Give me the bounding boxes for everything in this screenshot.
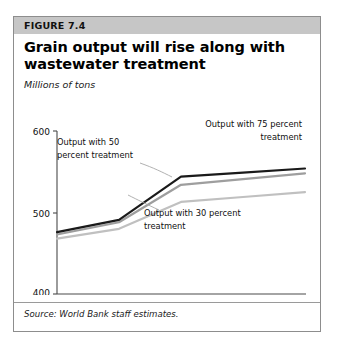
- annotation-50-percent-line-1: Output with 50: [57, 137, 119, 147]
- source-note: Source: World Bank staff estimates.: [24, 309, 179, 319]
- annotation-30-percent-line-1: Output with 30 percent: [144, 208, 241, 218]
- figure-title-line-2: wastewater treatment: [24, 56, 206, 72]
- annotation-75-percent-line-2: treatment: [260, 132, 302, 142]
- leader-line-50-percent: [140, 163, 172, 177]
- figure-title-line-1: Grain output will rise along with: [24, 39, 285, 55]
- figure-number-banner: FIGURE 7.4: [14, 17, 320, 34]
- figure-number-label: FIGURE 7.4: [24, 20, 85, 31]
- y-tick-label-600: 600: [33, 127, 50, 137]
- chart-plot-area: 600 500 400 2000 2005 2010 2015 2020 Out…: [14, 95, 320, 295]
- line-chart-svg: 600 500 400 2000 2005 2010 2015 2020 Out…: [14, 95, 320, 295]
- source-divider: [14, 302, 320, 303]
- annotation-75-percent-line-1: Output with 75 percent: [205, 119, 302, 129]
- y-tick-label-400: 400: [33, 288, 50, 295]
- y-tick-label-500: 500: [33, 209, 50, 219]
- units-label: Millions of tons: [24, 79, 95, 90]
- annotation-30-percent-line-2: treatment: [144, 221, 186, 231]
- annotation-50-percent-line-2: percent treatment: [57, 150, 134, 160]
- page-title: Grain output will rise along with wastew…: [24, 39, 314, 73]
- figure-card: FIGURE 7.4 Grain output will rise along …: [13, 16, 321, 332]
